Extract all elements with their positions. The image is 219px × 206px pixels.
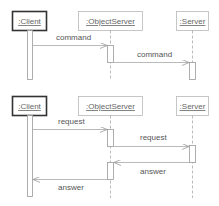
server-activation-bar <box>190 63 196 80</box>
object-server[interactable]: :Server <box>177 97 209 116</box>
object-client-label: :Client <box>18 17 41 26</box>
object-server[interactable]: :Server <box>177 12 209 31</box>
message-answer-1: answer <box>114 163 196 177</box>
objectserver-activation-bar <box>108 46 114 63</box>
object-objectserver-label: :ObjectServer <box>86 17 135 26</box>
message-label: answer <box>140 167 166 176</box>
message-label: command <box>56 33 91 42</box>
message-label: request <box>58 117 85 126</box>
message-command-2: command <box>114 50 190 63</box>
client-activation-bar <box>28 31 33 80</box>
sequence-diagram-command: :Client :ObjectServer :Server command co… <box>13 12 209 81</box>
message-label: command <box>137 50 172 59</box>
object-server-label: :Server <box>180 102 206 111</box>
object-server-label: :Server <box>180 17 206 26</box>
message-label: answer <box>58 183 84 192</box>
message-answer-2: answer <box>33 180 108 193</box>
message-request-2: request <box>114 133 190 147</box>
object-client[interactable]: :Client <box>13 97 47 116</box>
message-command-1: command <box>33 33 108 46</box>
objectserver-activation-bar-1 <box>108 130 114 147</box>
object-objectserver[interactable]: :ObjectServer <box>79 12 143 31</box>
object-objectserver-label: :ObjectServer <box>86 102 135 111</box>
sequence-diagram-request-answer: :Client :ObjectServer :Server request re… <box>13 97 209 199</box>
sequence-diagrams: :Client :ObjectServer :Server command co… <box>0 0 219 206</box>
message-label: request <box>140 133 167 142</box>
server-activation-bar <box>190 146 196 163</box>
message-request-1: request <box>33 117 108 130</box>
object-objectserver[interactable]: :ObjectServer <box>79 97 143 116</box>
object-client[interactable]: :Client <box>13 12 47 31</box>
objectserver-activation-bar-2 <box>108 163 114 180</box>
client-activation-bar <box>28 116 33 197</box>
object-client-label: :Client <box>18 102 41 111</box>
